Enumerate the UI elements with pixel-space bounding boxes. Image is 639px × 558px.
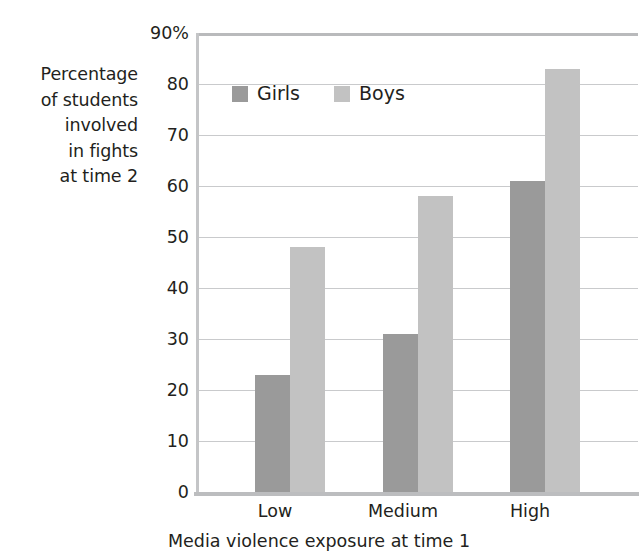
- legend-swatch-girls-icon: [232, 86, 248, 102]
- bar-girls-high[interactable]: [510, 181, 545, 492]
- y-axis-title-line-1: Percentage: [6, 62, 138, 88]
- bar-boys-high[interactable]: [545, 69, 580, 492]
- y-tick-label-0: 0: [133, 484, 189, 502]
- x-axis-title: Media violence exposure at time 1: [0, 533, 638, 551]
- bar-boys-low[interactable]: [290, 247, 325, 492]
- y-axis-title-line-2: of students: [6, 88, 138, 114]
- legend-swatch-boys-icon: [334, 86, 350, 102]
- y-tick-label-60: 60: [133, 178, 189, 196]
- y-tick-label-50: 50: [133, 229, 189, 247]
- y-axis-title-line-4: in fights: [6, 139, 138, 165]
- y-axis-line: [196, 33, 199, 492]
- bar-boys-medium[interactable]: [418, 196, 453, 492]
- y-axis-title-line-3: involved: [6, 113, 138, 139]
- x-axis-line: [194, 492, 639, 496]
- gridline-90: [196, 33, 638, 36]
- bar-girls-medium[interactable]: [383, 334, 418, 492]
- y-tick-label-40: 40: [133, 280, 189, 298]
- legend: Girls Boys: [232, 84, 405, 103]
- y-tick-label-10: 10: [133, 433, 189, 451]
- y-tick-label-30: 30: [133, 331, 189, 349]
- y-tick-label-90: 90%: [133, 25, 189, 43]
- y-axis-title: Percentage of students involved in fight…: [6, 62, 138, 190]
- x-tick-label-high: High: [480, 503, 580, 521]
- legend-label-boys: Boys: [359, 84, 405, 103]
- y-tick-label-20: 20: [133, 382, 189, 400]
- legend-item-boys[interactable]: Boys: [334, 84, 405, 103]
- x-tick-label-medium: Medium: [353, 503, 453, 521]
- legend-label-girls: Girls: [257, 84, 300, 103]
- y-tick-label-70: 70: [133, 127, 189, 145]
- y-axis-title-line-5: at time 2: [6, 164, 138, 190]
- bar-girls-low[interactable]: [255, 375, 290, 492]
- y-tick-label-80: 80: [133, 76, 189, 94]
- x-tick-label-low: Low: [225, 503, 325, 521]
- legend-item-girls[interactable]: Girls: [232, 84, 300, 103]
